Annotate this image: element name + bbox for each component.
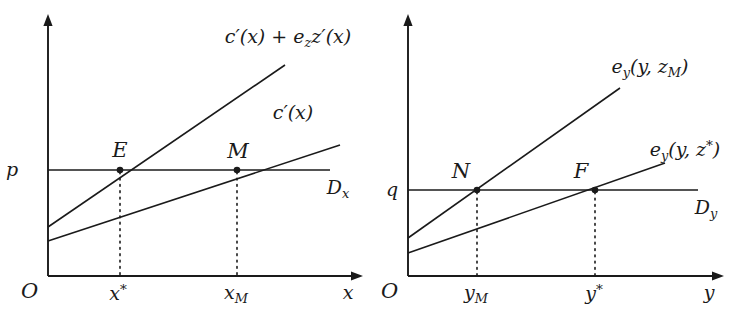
left-xtick-xstar-label: x*: [109, 283, 127, 303]
left-point-M-label: M: [227, 141, 249, 162]
right-xtick-ystar-label: y*: [585, 283, 603, 303]
left-origin-label: O: [21, 281, 38, 302]
right-point-N-label: N: [452, 161, 470, 182]
left-y-axis-arrowhead: [43, 14, 52, 26]
left-point-E-label: E: [112, 140, 127, 161]
figure-canvas: c′(x) + ezz′(x) c′(x) Dx E M p O x* xM x…: [0, 0, 748, 335]
left-curve-shallow-label: c′(x): [273, 103, 314, 122]
left-panel-graphics: [43, 14, 363, 281]
right-x-axis-arrowhead: [712, 271, 724, 280]
left-x-axis-label: x: [343, 283, 354, 302]
right-price-label: q: [386, 180, 398, 199]
left-demand-label: Dx: [327, 178, 350, 201]
left-point-E-dot: [117, 167, 124, 174]
right-curve-shallow-label: ey(y, z*): [650, 139, 721, 163]
right-point-N-dot: [474, 187, 481, 194]
left-x-axis-arrowhead: [351, 271, 363, 280]
left-curve-steep-label: c′(x) + ezz′(x): [225, 27, 351, 50]
left-price-label: p: [6, 160, 18, 179]
right-demand-label: Dy: [695, 198, 718, 221]
right-xtick-ym-label: yM: [464, 283, 488, 306]
right-point-F-dot: [592, 187, 599, 194]
right-curve-shallow: [408, 163, 665, 253]
right-y-axis-arrowhead: [403, 14, 412, 26]
right-origin-label: O: [381, 281, 398, 302]
right-point-F-label: F: [574, 161, 589, 182]
left-xtick-xm-label: xM: [224, 283, 248, 306]
left-point-M-dot: [234, 167, 241, 174]
right-curve-steep-label: ey(y, zM): [612, 57, 689, 80]
right-x-axis-label: y: [704, 283, 715, 302]
left-curve-shallow: [48, 145, 340, 241]
